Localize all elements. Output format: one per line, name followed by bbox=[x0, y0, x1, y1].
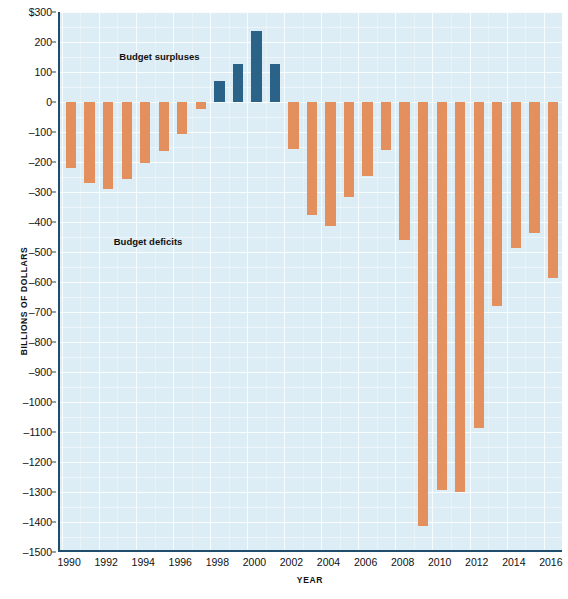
bar-2007[interactable] bbox=[381, 102, 391, 150]
x-tick-label: 2006 bbox=[346, 556, 386, 568]
y-tick-mark bbox=[52, 282, 56, 283]
bar-2015[interactable] bbox=[529, 102, 539, 233]
y-tick-mark bbox=[52, 342, 56, 343]
bar-2005[interactable] bbox=[344, 102, 354, 197]
bar-1994[interactable] bbox=[140, 102, 150, 163]
bar-1998[interactable] bbox=[214, 81, 224, 102]
x-tick-label: 1996 bbox=[160, 556, 200, 568]
x-axis-tick-labels: 1990199219941996199820002002200420062008… bbox=[0, 552, 568, 576]
bar-1992[interactable] bbox=[103, 102, 113, 189]
gridline-vertical bbox=[266, 12, 267, 550]
annotation-budget-surpluses: Budget surpluses bbox=[119, 51, 199, 62]
y-tick-mark bbox=[52, 192, 56, 193]
bar-1993[interactable] bbox=[122, 102, 132, 179]
y-tick-mark bbox=[52, 252, 56, 253]
x-tick-label: 1998 bbox=[197, 556, 237, 568]
gridline-vertical bbox=[507, 12, 508, 550]
gridline-vertical bbox=[80, 12, 81, 550]
gridline-vertical bbox=[470, 12, 471, 550]
budget-deficit-surplus-chart: BILLIONS OF DOLLARS $3002001000–100–200–… bbox=[0, 0, 568, 599]
gridline-vertical bbox=[414, 12, 415, 550]
x-tick-label: 1990 bbox=[49, 556, 89, 568]
y-tick-label: 200 bbox=[0, 36, 52, 48]
gridline-vertical bbox=[321, 12, 322, 550]
gridline-vertical bbox=[377, 12, 378, 550]
y-tick-mark bbox=[52, 132, 56, 133]
bar-1996[interactable] bbox=[177, 102, 187, 134]
y-tick-label: $300 bbox=[0, 6, 52, 18]
x-tick-label: 2010 bbox=[420, 556, 460, 568]
gridline-vertical bbox=[358, 12, 359, 550]
y-tick-mark bbox=[52, 102, 56, 103]
gridline-vertical bbox=[340, 12, 341, 550]
x-tick-label: 2002 bbox=[271, 556, 311, 568]
x-tick-label: 2000 bbox=[234, 556, 274, 568]
y-tick-mark bbox=[52, 462, 56, 463]
bar-2001[interactable] bbox=[270, 64, 280, 102]
y-tick-label: 0 bbox=[0, 96, 52, 108]
bar-2016[interactable] bbox=[548, 102, 558, 278]
gridline-vertical bbox=[544, 12, 545, 550]
gridline-vertical bbox=[99, 12, 100, 550]
annotation-budget-deficits: Budget deficits bbox=[114, 236, 183, 247]
y-tick-label: –900 bbox=[0, 366, 52, 378]
bar-2000[interactable] bbox=[251, 31, 261, 102]
x-tick-label: 2008 bbox=[383, 556, 423, 568]
bar-1999[interactable] bbox=[233, 64, 243, 102]
bar-2002[interactable] bbox=[288, 102, 298, 149]
y-tick-mark bbox=[52, 522, 56, 523]
x-tick-label: 1992 bbox=[86, 556, 126, 568]
bar-2004[interactable] bbox=[325, 102, 335, 226]
gridline-vertical bbox=[192, 12, 193, 550]
y-tick-label: –1300 bbox=[0, 486, 52, 498]
y-tick-mark bbox=[52, 12, 56, 13]
x-tick-label: 1994 bbox=[123, 556, 163, 568]
y-tick-label: –600 bbox=[0, 276, 52, 288]
bar-2013[interactable] bbox=[492, 102, 502, 306]
y-tick-mark bbox=[52, 492, 56, 493]
y-tick-mark bbox=[52, 402, 56, 403]
gridline-vertical bbox=[525, 12, 526, 550]
bar-1990[interactable] bbox=[66, 102, 76, 168]
y-tick-label: –1400 bbox=[0, 516, 52, 528]
gridline-vertical bbox=[488, 12, 489, 550]
y-tick-mark bbox=[52, 312, 56, 313]
y-tick-label: 100 bbox=[0, 66, 52, 78]
gridline-vertical bbox=[395, 12, 396, 550]
y-tick-mark bbox=[52, 72, 56, 73]
gridline-vertical bbox=[451, 12, 452, 550]
y-tick-mark bbox=[52, 432, 56, 433]
bar-1997[interactable] bbox=[196, 102, 206, 109]
bar-2012[interactable] bbox=[474, 102, 484, 428]
gridline-vertical bbox=[173, 12, 174, 550]
bar-2006[interactable] bbox=[362, 102, 372, 176]
gridline-vertical bbox=[432, 12, 433, 550]
y-tick-label: –1200 bbox=[0, 456, 52, 468]
y-tick-mark bbox=[52, 222, 56, 223]
bar-2010[interactable] bbox=[437, 102, 447, 490]
gridline-vertical bbox=[229, 12, 230, 550]
gridline-vertical bbox=[62, 12, 63, 550]
y-tick-label: –100 bbox=[0, 126, 52, 138]
y-tick-label: –1000 bbox=[0, 396, 52, 408]
gridline-vertical bbox=[284, 12, 285, 550]
bar-2011[interactable] bbox=[455, 102, 465, 492]
y-tick-label: –500 bbox=[0, 246, 52, 258]
bar-1995[interactable] bbox=[159, 102, 169, 151]
plot-area: Budget surplusesBudget deficits bbox=[58, 12, 562, 552]
gridline-vertical bbox=[210, 12, 211, 550]
y-tick-label: –700 bbox=[0, 306, 52, 318]
gridline-vertical bbox=[136, 12, 137, 550]
bar-2008[interactable] bbox=[399, 102, 409, 240]
bar-1991[interactable] bbox=[84, 102, 94, 183]
gridline-vertical bbox=[303, 12, 304, 550]
y-tick-label: –200 bbox=[0, 156, 52, 168]
bar-2003[interactable] bbox=[307, 102, 317, 215]
x-tick-label: 2014 bbox=[494, 556, 534, 568]
y-tick-label: –300 bbox=[0, 186, 52, 198]
y-axis-tick-labels: $3002001000–100–200–300–400–500–600–700–… bbox=[0, 0, 56, 599]
y-tick-label: –800 bbox=[0, 336, 52, 348]
bar-2014[interactable] bbox=[511, 102, 521, 248]
bar-2009[interactable] bbox=[418, 102, 428, 526]
y-tick-mark bbox=[52, 162, 56, 163]
